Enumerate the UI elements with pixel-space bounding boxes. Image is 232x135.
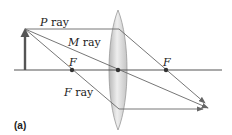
f-ray-label: F ray [63, 86, 94, 99]
ray-diagram: P ray M ray F ray F F (a) [0, 0, 232, 135]
figure-caption: (a) [14, 120, 26, 131]
object-arrow [21, 28, 30, 70]
lens-center [116, 68, 120, 72]
m-ray-label: M ray [67, 36, 102, 49]
focal-left-label: F [68, 56, 77, 69]
focal-right-label: F [162, 56, 171, 69]
p-ray-label: P ray [39, 16, 70, 29]
